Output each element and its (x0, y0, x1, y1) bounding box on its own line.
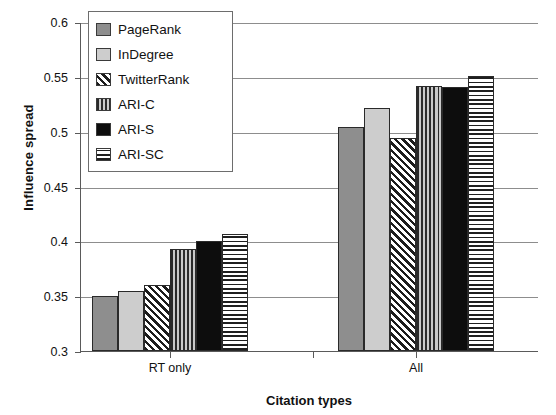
y-tick-mark (75, 242, 81, 243)
legend-label: ARI-SC (118, 148, 164, 162)
y-tick-mark (75, 133, 81, 134)
legend-item-pagerank: PageRank (96, 17, 226, 42)
legend-swatch-twitterrank-icon (96, 73, 111, 86)
legend-item-ari-sc: ARI-SC (96, 142, 226, 167)
y-tick-label: 0.6 (24, 16, 68, 30)
bar-ari-s-all (442, 87, 468, 351)
bar-pagerank-all (338, 127, 364, 351)
y-tick-label: 0.5 (24, 126, 68, 140)
y-tick-label: 0.3 (24, 345, 68, 359)
bar-indegree-rt-only (118, 291, 144, 351)
y-tick-mark (75, 297, 81, 298)
y-tick-label: 0.35 (24, 290, 68, 304)
legend-item-ari-s: ARI-S (96, 117, 226, 142)
bar-ari-c-all (416, 86, 442, 351)
bar-pagerank-rt-only (92, 296, 118, 351)
x-category-label-rt-only: RT only (149, 361, 192, 375)
y-tick-mark (75, 188, 81, 189)
y-tick-label: 0.55 (24, 71, 68, 85)
bar-twitterrank-all (390, 138, 416, 351)
bar-ari-c-rt-only (170, 249, 196, 351)
x-tick-mark-center (313, 352, 314, 358)
legend-label: TwitterRank (118, 73, 189, 87)
legend-swatch-indegree-icon (96, 48, 111, 61)
legend-item-twitterrank: TwitterRank (96, 67, 226, 92)
legend-swatch-pagerank-icon (96, 23, 111, 36)
legend-label: ARI-C (118, 98, 155, 112)
legend-swatch-ari-s-icon (96, 123, 111, 136)
bar-ari-sc-all (468, 76, 494, 351)
y-tick-label: 0.4 (24, 235, 68, 249)
y-tick-mark (75, 78, 81, 79)
bar-ari-s-rt-only (196, 241, 222, 351)
x-category-label-all: All (409, 361, 423, 375)
legend-label: ARI-S (118, 123, 154, 137)
legend: PageRankInDegreeTwitterRankARI-CARI-SARI… (88, 11, 233, 172)
y-axis-title: Influence spread (21, 58, 36, 258)
bar-indegree-all (364, 108, 390, 351)
bar-ari-sc-rt-only (222, 234, 248, 351)
legend-item-ari-c: ARI-C (96, 92, 226, 117)
y-tick-mark (75, 352, 81, 353)
y-tick-label: 0.45 (24, 181, 68, 195)
x-axis-title: Citation types (80, 393, 538, 408)
legend-label: PageRank (118, 23, 181, 37)
x-tick-mark (170, 352, 171, 358)
legend-label: InDegree (118, 48, 174, 62)
legend-swatch-ari-c-icon (96, 98, 111, 111)
legend-swatch-ari-sc-icon (96, 148, 111, 161)
legend-item-indegree: InDegree (96, 42, 226, 67)
y-tick-mark (75, 23, 81, 24)
bar-chart: Influence spread 0.30.350.40.450.50.550.… (0, 0, 556, 415)
x-tick-mark (416, 352, 417, 358)
bar-twitterrank-rt-only (144, 285, 170, 351)
